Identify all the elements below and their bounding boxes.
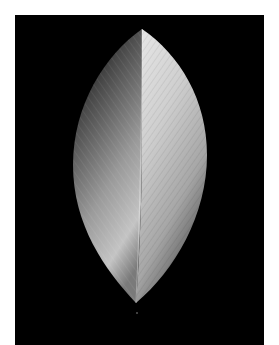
leaf-image [15,15,264,345]
caption-text [16,0,216,5]
photo-frame [15,15,264,345]
